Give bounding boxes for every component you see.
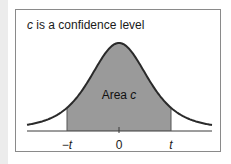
caption-text: is a confidence level	[33, 18, 144, 32]
figure-caption: c is a confidence level	[27, 18, 144, 32]
area-label: Area c	[102, 88, 137, 102]
tick-label-neg-t: −t	[62, 138, 72, 152]
area-label-prefix: Area	[102, 88, 131, 102]
shaded-confidence-area	[67, 43, 171, 131]
area-label-variable: c	[130, 88, 136, 102]
tick-label-zero: 0	[116, 138, 123, 152]
tick-label-pos-t: t	[169, 138, 172, 152]
